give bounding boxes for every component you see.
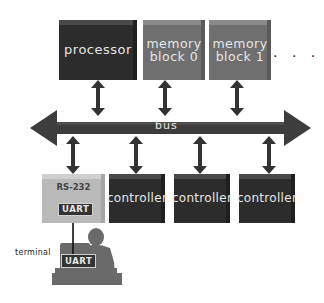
label-line-2: block 1 <box>216 49 265 64</box>
memory0-bus-arrow <box>158 80 172 116</box>
processor-bus-arrow <box>91 80 105 116</box>
controller-2: controller <box>174 174 230 223</box>
processor-block: processor <box>59 20 137 80</box>
side <box>101 174 105 223</box>
bus-label: bus <box>155 119 178 132</box>
rs232-label: RS-232 <box>42 183 105 192</box>
controller-1: controller <box>109 174 165 223</box>
bevel <box>174 174 230 179</box>
bevel <box>209 20 271 25</box>
rs232-block: RS-232 UART <box>42 174 105 223</box>
rs232-bus-arrow <box>66 136 80 174</box>
memory-block-1: memory block 1 <box>209 20 271 80</box>
controller3-bus-arrow <box>262 136 276 174</box>
bottom-arrows <box>66 136 276 174</box>
terminal-label: terminal <box>15 248 51 257</box>
bevel <box>59 20 137 25</box>
side <box>133 20 137 80</box>
controller1-bus-arrow <box>129 136 143 174</box>
uart-chip: UART <box>58 203 93 216</box>
top-arrows <box>91 80 244 116</box>
bevel <box>42 174 105 179</box>
memory-block-0: memory block 0 <box>143 20 205 80</box>
label-line-2: block 0 <box>150 49 199 64</box>
bevel <box>109 174 165 179</box>
memory1-bus-arrow <box>230 80 244 116</box>
terminal-uart-chip: UART <box>61 254 96 268</box>
controller2-bus-arrow <box>193 136 207 174</box>
controller-2-label: controller <box>172 192 232 205</box>
ellipsis: · · · <box>273 48 320 64</box>
controller-1-label: controller <box>107 192 167 205</box>
bevel <box>143 20 205 25</box>
controller-3: controller <box>239 174 295 223</box>
controller-3-label: controller <box>237 192 297 205</box>
memory-block-1-label: memory block 1 <box>212 37 267 63</box>
bevel <box>239 174 295 179</box>
memory-block-0-label: memory block 0 <box>146 37 201 63</box>
processor-label: processor <box>64 43 132 57</box>
